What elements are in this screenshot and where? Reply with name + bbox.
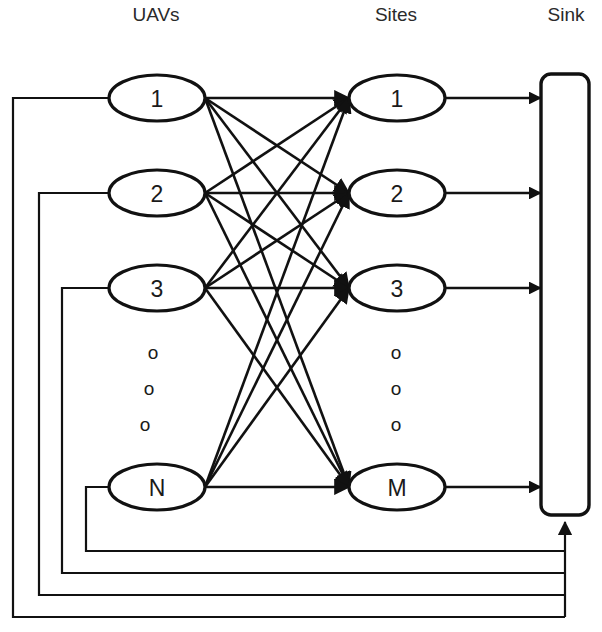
site-2-label: 2 [391,181,404,207]
sink-edge-layer [445,98,541,487]
flow-network-svg: UAVs Sites Sink 123N123M oooooo [0,0,602,632]
site-ellipsis-dot-2: o [391,378,402,399]
sink-bar[interactable] [541,74,589,515]
node-uav-1[interactable]: 1 [109,75,205,121]
uav-3-label: 3 [151,276,164,302]
node-site-2[interactable]: 2 [349,170,445,216]
column-label-sites: Sites [375,4,417,25]
uav-ellipsis-dot-3: o [140,414,151,435]
column-label-uavs: UAVs [132,4,179,25]
feedback-edge-to-uav-3 [62,288,565,573]
column-label-sink: Sink [548,4,585,25]
feedback-edge-to-uav-2 [39,193,565,595]
site-m-label: M [387,475,406,501]
uav-ellipsis-dot-2: o [144,378,155,399]
node-uav-2[interactable]: 2 [109,170,205,216]
site-3-label: 3 [391,276,404,302]
uav-1-label: 1 [151,86,164,112]
uav-n-label: N [149,475,166,501]
node-uav-3[interactable]: 3 [109,265,205,311]
site-1-label: 1 [391,86,404,112]
node-uav-n[interactable]: N [109,464,205,510]
network-diagram: UAVs Sites Sink 123N123M oooooo [0,0,602,632]
uav-ellipsis-dot-1: o [148,342,159,363]
node-site-3[interactable]: 3 [349,265,445,311]
site-ellipsis-dot-1: o [391,342,402,363]
column-headings: UAVs Sites Sink [132,4,585,25]
node-site-m[interactable]: M [349,464,445,510]
sink-node-layer [541,74,589,515]
uav-2-label: 2 [151,181,164,207]
bipartite-edge-layer [205,98,349,487]
node-site-1[interactable]: 1 [349,75,445,121]
site-ellipsis-dot-3: o [391,414,402,435]
